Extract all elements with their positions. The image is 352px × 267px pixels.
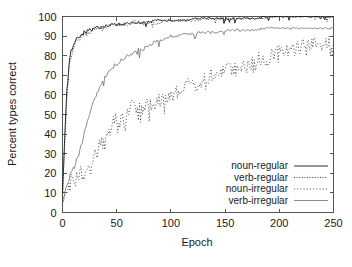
series-line-noun-irregular bbox=[63, 36, 334, 204]
axis-titles: Epoch Percent types correct bbox=[6, 62, 213, 248]
series-line-noun-regular bbox=[63, 17, 334, 193]
x-tick-label: 50 bbox=[111, 217, 123, 229]
x-tick-label: 250 bbox=[324, 217, 342, 229]
axis-ticks bbox=[63, 17, 334, 213]
y-axis-label: Percent types correct bbox=[6, 62, 18, 166]
chart-figure: 0102030405060708090100050100150200250 Ep… bbox=[0, 0, 352, 267]
y-tick-label: 30 bbox=[44, 148, 56, 160]
x-tick-label: 0 bbox=[59, 217, 65, 229]
y-tick-label: 90 bbox=[44, 30, 56, 42]
y-tick-label: 60 bbox=[44, 89, 56, 101]
line-chart: 0102030405060708090100050100150200250 Ep… bbox=[0, 0, 352, 267]
y-tick-label: 70 bbox=[44, 69, 56, 81]
y-tick-label: 50 bbox=[44, 109, 56, 121]
series-line-verb-irregular bbox=[63, 27, 334, 203]
y-tick-label: 0 bbox=[50, 207, 56, 219]
axis-tick-labels: 0102030405060708090100050100150200250 bbox=[38, 11, 343, 229]
y-tick-label: 100 bbox=[38, 11, 56, 23]
y-tick-label: 40 bbox=[44, 128, 56, 140]
y-tick-label: 10 bbox=[44, 187, 56, 199]
data-series-group bbox=[63, 17, 334, 205]
x-tick-label: 200 bbox=[270, 217, 288, 229]
legend-label-noun-regular: noun-regular bbox=[231, 160, 288, 171]
legend-label-noun-irregular: noun-irregular bbox=[226, 183, 289, 194]
legend-label-verb-irregular: verb-irregular bbox=[229, 195, 289, 206]
plot-border bbox=[63, 17, 334, 213]
series-line-verb-regular bbox=[63, 17, 334, 197]
chart-legend: noun-regularverb-regularnoun-irregularve… bbox=[226, 160, 328, 206]
y-tick-label: 80 bbox=[44, 50, 56, 62]
x-tick-label: 100 bbox=[162, 217, 180, 229]
x-axis-label: Epoch bbox=[181, 236, 212, 248]
legend-label-verb-regular: verb-regular bbox=[234, 172, 289, 183]
y-tick-label: 20 bbox=[44, 167, 56, 179]
x-tick-label: 150 bbox=[216, 217, 234, 229]
plot-frame bbox=[63, 17, 334, 213]
